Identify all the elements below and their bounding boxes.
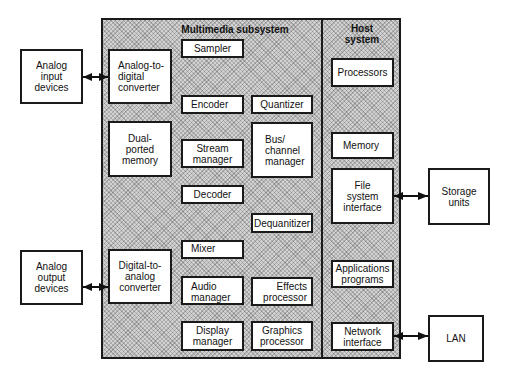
bidirectional-arrow-icon [82, 71, 109, 83]
subsystem-host-divider [321, 18, 323, 359]
processors-box: Processors [331, 58, 394, 87]
stream-manager-box: Stream manager [181, 139, 244, 168]
applications-programs-box: Applications programs [331, 260, 394, 288]
effects-processor-box: Effects processor [251, 277, 313, 306]
display-manager-box: Display manager [181, 321, 244, 351]
multimedia-subsystem-title: Multimedia subsystem [160, 24, 310, 35]
bidirectional-arrow-icon [393, 330, 429, 342]
host-system-title: Host system [330, 23, 394, 45]
decoder-box: Decoder [181, 185, 244, 204]
dequantizer-box: Dequanitizer [251, 213, 313, 233]
dac-box: Digital-to- analog converter [108, 249, 172, 304]
analog-output-devices-box: Analog output devices [20, 250, 83, 305]
network-interface-box: Network interface [331, 322, 394, 351]
audio-manager-box: Audio manager [181, 276, 244, 305]
mixer-box: Mixer [181, 240, 244, 259]
adc-box: Analog-to- digital converter [108, 49, 172, 104]
dual-ported-memory-box: Dual- ported memory [108, 121, 172, 177]
bus-channel-manager-box: Bus/ channel manager [251, 122, 313, 178]
lan-box: LAN [428, 315, 484, 362]
bidirectional-arrow-icon [82, 281, 109, 293]
storage-units-box: Storage units [428, 168, 490, 225]
quantizer-box: Quantizer [251, 95, 313, 114]
graphics-processor-box: Graphics processor [251, 321, 313, 351]
diagram-canvas: Multimedia subsystem Host system Sampler… [0, 0, 506, 379]
bidirectional-arrow-icon [393, 190, 429, 202]
file-system-interface-box: File system interface [331, 168, 394, 224]
encoder-box: Encoder [181, 95, 244, 114]
memory-box: Memory [331, 132, 394, 159]
sampler-box: Sampler [181, 39, 244, 58]
analog-input-devices-box: Analog input devices [20, 49, 83, 104]
